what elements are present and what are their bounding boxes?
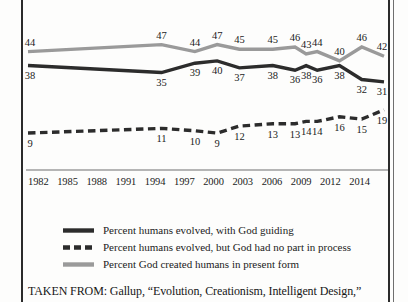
source-caption: TAKEN FROM: Gallup, “Evolution, Creation… [28, 284, 390, 299]
data-label-s1-5: 13 [268, 129, 279, 140]
x-axis-tick-labels: 1982 1985 1988 1991 1994 1997 2000 2003 … [28, 176, 370, 194]
data-label-s2-8: 44 [312, 37, 323, 48]
data-label-s0-2: 39 [190, 67, 201, 78]
legend-item-created-present-form: Percent God created humans in present fo… [62, 256, 372, 272]
chart-legend: Percent humans evolved, with God guiding… [62, 222, 372, 273]
data-label-s1-6: 13 [290, 129, 301, 140]
chart-svg: 4447444745454643444046423835394037383638… [24, 4, 390, 172]
data-label-s2-6: 46 [290, 32, 301, 43]
data-label-s2-11: 42 [377, 41, 388, 52]
data-label-s0-0: 38 [25, 70, 36, 81]
figure-left-border [21, 0, 23, 302]
legend-label-created-present-form: Percent God created humans in present fo… [103, 259, 299, 270]
line-chart-plot-area: 4447444745454643444046423835394037383638… [24, 4, 390, 172]
x-tick-2003: 2003 [232, 176, 253, 187]
data-label-s1-2: 10 [190, 136, 201, 147]
x-tick-2012: 2012 [320, 176, 341, 187]
series-line-1 [28, 110, 384, 133]
series-line-0 [28, 61, 384, 82]
data-label-s0-10: 32 [357, 84, 368, 95]
series-line-2 [28, 45, 384, 61]
data-label-s2-0: 44 [25, 37, 36, 48]
x-tick-1991: 1991 [116, 176, 137, 187]
x-tick-1982: 1982 [28, 176, 49, 187]
legend-label-evolved-with-god: Percent humans evolved, with God guiding [103, 225, 294, 236]
x-tick-2014: 2014 [349, 176, 370, 187]
data-label-s1-7: 14 [301, 126, 312, 137]
data-label-s2-4: 45 [234, 34, 245, 45]
data-label-s2-9: 40 [334, 46, 345, 57]
x-tick-2000: 2000 [203, 176, 224, 187]
solid-dark-line-swatch [62, 225, 95, 236]
data-label-s0-6: 36 [290, 74, 301, 85]
data-label-s1-3: 9 [215, 138, 220, 149]
data-label-s1-9: 16 [334, 122, 345, 133]
data-label-s2-7: 43 [301, 39, 312, 50]
legend-label-evolved-no-god: Percent humans evolved, but God had no p… [103, 242, 351, 253]
x-tick-1997: 1997 [174, 176, 195, 187]
data-label-s0-1: 35 [156, 77, 167, 88]
x-tick-2006: 2006 [262, 176, 283, 187]
data-label-s2-2: 44 [190, 37, 201, 48]
x-tick-1994: 1994 [145, 176, 166, 187]
data-label-s1-10: 15 [357, 124, 368, 135]
data-label-s0-7: 38 [301, 70, 312, 81]
data-label-s1-0: 9 [27, 138, 32, 149]
x-tick-2009: 2009 [291, 176, 312, 187]
data-label-s1-11: 19 [377, 115, 388, 126]
legend-item-evolved-with-god: Percent humans evolved, with God guiding [62, 222, 372, 238]
data-label-s1-1: 11 [156, 133, 166, 144]
data-label-s1-8: 14 [312, 126, 323, 137]
chart-figure: 4447444745454643444046423835394037383638… [0, 0, 408, 302]
figure-right-inner-border [393, 0, 394, 302]
legend-item-evolved-no-god: Percent humans evolved, but God had no p… [62, 239, 372, 255]
data-label-s0-9: 38 [334, 70, 345, 81]
x-tick-1985: 1985 [57, 176, 78, 187]
data-label-s0-5: 38 [268, 70, 279, 81]
data-label-s2-5: 45 [268, 34, 279, 45]
data-label-s0-4: 37 [234, 72, 245, 83]
solid-gray-line-swatch [62, 259, 95, 270]
data-label-s0-3: 40 [212, 65, 223, 76]
data-label-s2-10: 46 [357, 32, 368, 43]
dashed-dark-line-swatch [62, 242, 95, 253]
data-label-s0-11: 31 [377, 86, 388, 97]
data-label-s1-4: 12 [234, 131, 245, 142]
x-tick-1988: 1988 [86, 176, 107, 187]
data-label-s2-1: 47 [156, 30, 167, 41]
data-label-s2-3: 47 [212, 30, 223, 41]
data-label-s0-8: 36 [312, 74, 323, 85]
